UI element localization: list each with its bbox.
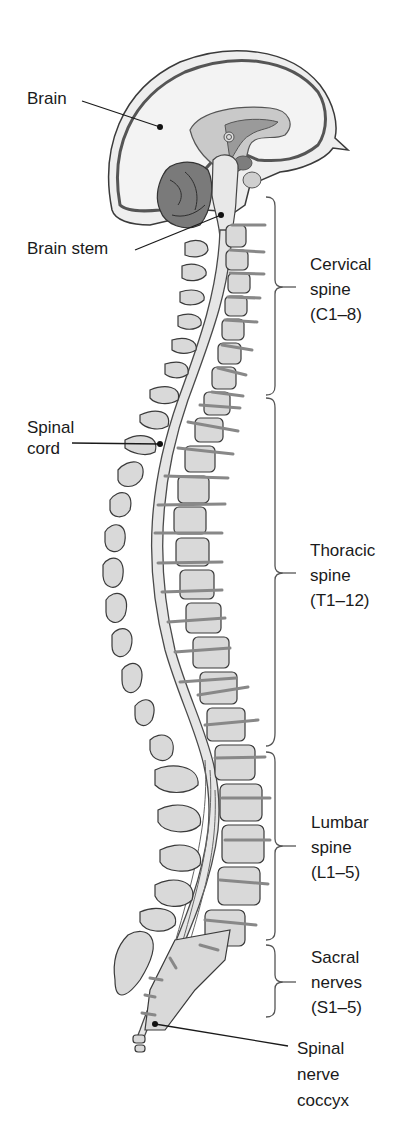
label-brain: Brain: [27, 88, 67, 109]
label-cervical-spine: Cervical spine (C1–8): [310, 252, 371, 327]
region-braces: [266, 197, 296, 1017]
spine-anatomy-figure: Brain Brain stem Spinal cord Spinal nerv…: [0, 0, 414, 1141]
label-spinal-cord: Spinal cord: [27, 417, 74, 459]
thoracic-brace: [266, 398, 283, 690]
label-thoracic-spine: Thoracic spine (T1–12): [310, 538, 375, 613]
label-lumbar-spine: Lumbar spine (L1–5): [311, 810, 369, 885]
brain-illustration: [109, 51, 348, 240]
cervical-brace: [266, 197, 283, 395]
sacral-brace: [266, 945, 283, 1017]
label-sacral-nerves: Sacral nerves (S1–5): [311, 945, 362, 1020]
label-brain-stem: Brain stem: [27, 238, 108, 259]
coccyx-pointer-dot: [152, 1021, 158, 1027]
spinal-cord-pointer-dot: [157, 441, 163, 447]
lumbar-brace: [266, 752, 283, 940]
label-spinal-nerve-coccyx: Spinal nerve coccyx: [297, 1036, 349, 1114]
